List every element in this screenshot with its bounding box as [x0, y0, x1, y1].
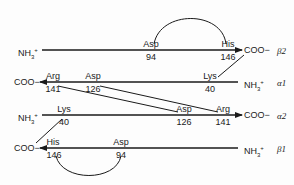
- alpha2-chain-label: α2: [277, 111, 286, 121]
- alpha1-residue-asp-name: Asp: [81, 71, 105, 81]
- beta1-residue-his-name: His: [41, 137, 65, 147]
- alpha1-residue-arg-name: Arg: [41, 71, 65, 81]
- alpha2-right-terminus: COO−: [244, 110, 270, 120]
- alpha1-residue-lys-number: 40: [198, 84, 222, 94]
- alpha2-residue-arg-number: 141: [211, 117, 235, 127]
- alpha1-right-terminus: NH3+: [244, 77, 264, 94]
- alpha2-residue-arg-name: Arg: [211, 104, 235, 114]
- beta2-chain-label: β2: [277, 46, 286, 56]
- alpha1-chain-label: α1: [277, 78, 286, 88]
- alpha2-residue-lys-name: Lys: [52, 104, 76, 114]
- beta1-chain-label: β1: [277, 144, 286, 154]
- alpha1-residue-asp-number: 126: [81, 84, 105, 94]
- alpha2-residue-asp-number: 126: [172, 117, 196, 127]
- beta2-right-terminus: COO−: [244, 45, 270, 55]
- beta2-residue-asp-name: Asp: [139, 39, 163, 49]
- beta1-residue-asp-name: Asp: [109, 137, 133, 147]
- beta2-residue-his-name: His: [216, 39, 240, 49]
- beta2-residue-his-number: 146: [216, 52, 240, 62]
- alpha1-residue-lys-name: Lys: [198, 71, 222, 81]
- salt-bridge-diagram: NH3+ COO− β2 Asp 94 His 146 COO− NH3+ α1…: [0, 0, 294, 185]
- alpha2-residue-asp-name: Asp: [172, 104, 196, 114]
- beta1-residue-asp-number: 94: [109, 150, 133, 160]
- beta1-residue-his-number: 146: [42, 150, 66, 160]
- alpha2-left-terminus: NH3+: [18, 110, 38, 127]
- beta2-left-terminus: NH3+: [18, 45, 38, 62]
- beta1-left-terminus: COO−: [14, 143, 40, 153]
- alpha1-residue-arg-number: 141: [41, 84, 65, 94]
- beta1-right-terminus: NH3+: [244, 143, 264, 160]
- alpha2-residue-lys-number: 40: [52, 117, 76, 127]
- beta2-residue-asp-number: 94: [139, 52, 163, 62]
- alpha1-left-terminus: COO−: [14, 77, 40, 87]
